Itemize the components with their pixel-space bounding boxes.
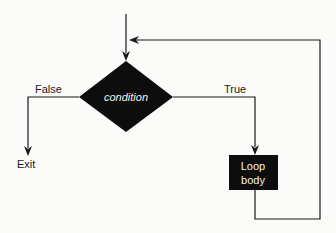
condition-node: condition	[79, 61, 173, 132]
while-loop-flowchart: condition False Exit True Loop body	[0, 0, 336, 233]
loop-body-label-line1: Loop	[241, 160, 265, 172]
loop-body-label-line2: body	[241, 174, 265, 186]
true-edge: True	[173, 83, 259, 155]
condition-label: condition	[104, 91, 148, 103]
loop-back-edge	[129, 36, 320, 219]
true-branch-label: True	[224, 83, 246, 95]
loop-body-node: Loop body	[229, 155, 278, 190]
entry-edge	[122, 14, 130, 61]
exit-label: Exit	[17, 158, 35, 170]
false-edge: False	[24, 83, 79, 156]
false-branch-label: False	[35, 83, 62, 95]
